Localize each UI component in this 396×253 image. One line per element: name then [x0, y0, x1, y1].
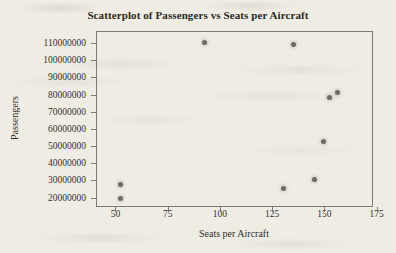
y-tick-mark — [91, 60, 96, 61]
y-tick-mark — [91, 198, 96, 199]
y-tick-mark — [91, 112, 96, 113]
x-tick-mark — [220, 207, 221, 212]
y-tick-label: 50000000 — [0, 141, 86, 151]
y-tick-mark — [91, 146, 96, 147]
data-point — [118, 196, 123, 201]
plot-area — [96, 31, 373, 207]
y-tick-label: 100000000 — [0, 55, 86, 65]
x-tick-mark — [324, 207, 325, 212]
y-tick-mark — [91, 129, 96, 130]
y-tick-label: 70000000 — [0, 107, 86, 117]
y-tick-label: 60000000 — [0, 124, 86, 134]
data-point — [291, 42, 296, 47]
x-tick-mark — [168, 207, 169, 212]
data-point — [281, 186, 286, 191]
x-tick-mark — [377, 207, 378, 212]
y-tick-label: 30000000 — [0, 175, 86, 185]
data-point — [335, 90, 340, 95]
scatterplot-figure: Scatterplot of Passengers vs Seats per A… — [0, 0, 396, 253]
data-point — [321, 139, 326, 144]
y-tick-label: 40000000 — [0, 158, 86, 168]
y-tick-mark — [91, 77, 96, 78]
x-tick-mark — [115, 207, 116, 212]
y-tick-label: 20000000 — [0, 193, 86, 203]
y-tick-label: 110000000 — [0, 38, 86, 48]
chart-title: Scatterplot of Passengers vs Seats per A… — [0, 9, 396, 21]
data-point — [312, 177, 317, 182]
y-tick-label: 80000000 — [0, 90, 86, 100]
y-tick-mark — [91, 43, 96, 44]
data-point — [327, 95, 332, 100]
y-tick-label: 90000000 — [0, 72, 86, 82]
y-tick-mark — [91, 163, 96, 164]
y-tick-mark — [91, 95, 96, 96]
data-point — [202, 40, 207, 45]
y-tick-mark — [91, 180, 96, 181]
x-axis-label: Seats per Aircraft — [199, 228, 269, 239]
data-point — [118, 182, 123, 187]
x-tick-mark — [272, 207, 273, 212]
